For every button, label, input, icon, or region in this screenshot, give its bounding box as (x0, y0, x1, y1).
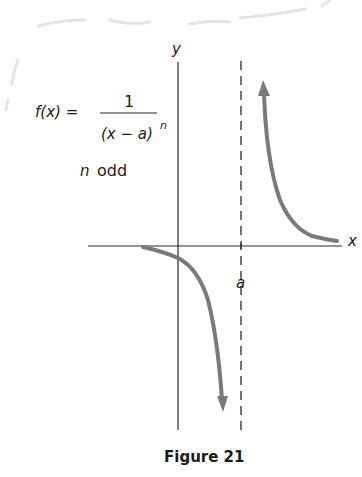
y-axis-label: y (171, 40, 182, 58)
left-branch-curve (143, 247, 222, 400)
figure-canvas: y x a f(x) = 1 (x − a) n n odd Figure 21 (0, 0, 362, 477)
figure-caption: Figure 21 (164, 448, 244, 466)
right-branch-curve (264, 92, 337, 241)
formula-numerator: 1 (124, 92, 134, 111)
asymptote-label: a (236, 274, 245, 292)
condition-text: odd (97, 161, 127, 180)
condition-variable: n (80, 162, 90, 180)
formula-lhs: f(x) = (35, 103, 78, 121)
up-arrowhead-icon (258, 80, 270, 96)
scan-smudge (6, 0, 330, 110)
formula-exponent: n (160, 119, 167, 132)
x-axis-label: x (347, 232, 357, 250)
formula-denominator: (x − a) (101, 125, 153, 143)
down-arrowhead-icon (217, 396, 228, 412)
